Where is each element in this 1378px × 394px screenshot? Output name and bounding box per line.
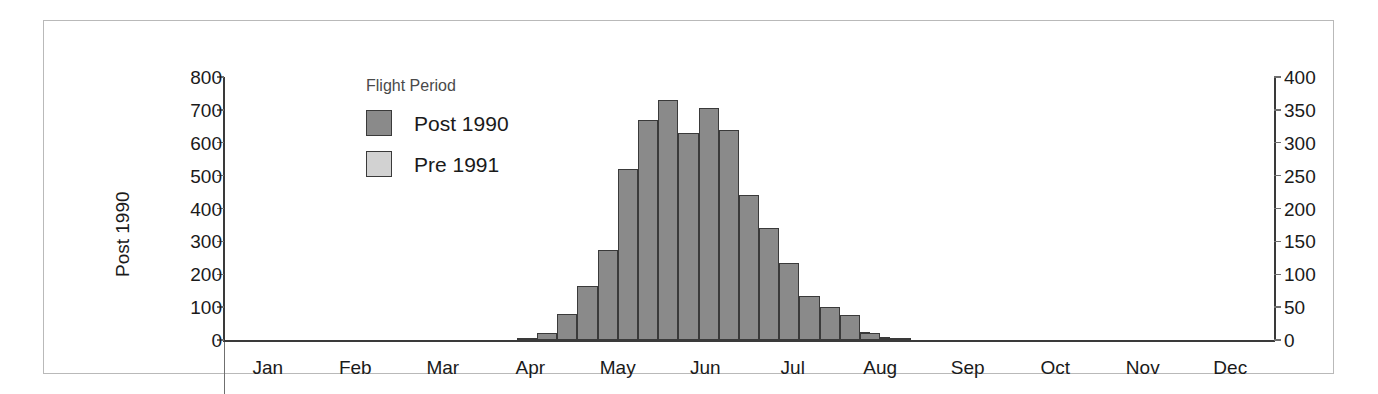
right-axis-tick-label: 250 — [1284, 167, 1316, 186]
right-axis-tick — [1274, 339, 1281, 340]
x-axis-month-label: Dec — [1190, 358, 1270, 377]
right-axis-tick-label: 0 — [1284, 331, 1295, 350]
bar-post-1990 — [719, 130, 739, 340]
x-axis-month-label: Feb — [315, 358, 395, 377]
bar-post-1990 — [779, 263, 799, 340]
bar-post-1990 — [577, 286, 597, 340]
figure-frame: 0100200300400500600700800 05010015020025… — [43, 20, 1334, 374]
bar-post-1990 — [517, 338, 537, 340]
bar-post-1990 — [840, 315, 860, 340]
left-axis-tick-label: 300 — [190, 232, 222, 251]
legend-label-pre-1991: Pre 1991 — [414, 154, 499, 175]
bar-post-1990 — [537, 333, 557, 340]
bar-post-1990 — [638, 120, 658, 340]
right-axis-tick — [1274, 274, 1281, 275]
bar-post-1990 — [739, 195, 759, 340]
right-axis-tick-label: 50 — [1284, 298, 1305, 317]
bar-post-1990 — [678, 133, 698, 340]
x-axis-month-label: May — [578, 358, 658, 377]
bar-post-1990 — [860, 333, 880, 340]
right-axis-tick-label: 350 — [1284, 101, 1316, 120]
x-axis-line — [223, 340, 1275, 342]
right-axis-tick — [1274, 142, 1281, 143]
left-axis-title: Post 1990 — [112, 191, 134, 277]
bar-post-1990 — [598, 250, 618, 340]
right-axis-tick — [1274, 306, 1281, 307]
bar-post-1990 — [658, 100, 678, 340]
legend-item-post-1990: Post 1990 — [366, 110, 576, 136]
right-axis-tick-label: 300 — [1284, 134, 1316, 153]
legend-swatch-post-1990 — [366, 110, 392, 136]
bar-post-1990 — [618, 169, 638, 340]
x-axis-tick — [224, 356, 225, 365]
x-axis-month-label: Sep — [928, 358, 1008, 377]
x-axis-month-label: Mar — [403, 358, 483, 377]
left-axis-tick-label: 700 — [190, 101, 222, 120]
legend: Flight Period Post 1990 Pre 1991 — [366, 78, 576, 192]
x-axis-tick — [224, 347, 225, 356]
bar-post-1990 — [759, 228, 779, 340]
bar-post-1990 — [799, 296, 819, 340]
left-axis-tick-label: 500 — [190, 167, 222, 186]
right-axis-tick-label: 400 — [1284, 68, 1316, 87]
bar-post-1990 — [699, 108, 719, 340]
right-axis-tick — [1274, 241, 1281, 242]
right-axis-tick — [1274, 76, 1281, 77]
legend-label-post-1990: Post 1990 — [414, 113, 509, 134]
bar-post-1990 — [820, 307, 840, 340]
right-axis-tick — [1274, 208, 1281, 209]
x-axis-month-label: Nov — [1103, 358, 1183, 377]
left-axis-tick-label: 600 — [190, 134, 222, 153]
right-axis-tick — [1274, 175, 1281, 176]
left-axis-tick-label: 400 — [190, 200, 222, 219]
bar-post-1990 — [557, 314, 577, 340]
x-axis-month-label: Aug — [840, 358, 920, 377]
x-axis-month-label: Oct — [1015, 358, 1095, 377]
bar-post-1990 — [880, 338, 900, 340]
right-axis-tick-label: 200 — [1284, 200, 1316, 219]
right-axis-tick-label: 100 — [1284, 265, 1316, 284]
legend-swatch-pre-1991 — [366, 151, 392, 177]
left-axis-tick-label: 200 — [190, 265, 222, 284]
x-axis-month-label: Apr — [490, 358, 570, 377]
right-axis-tick-label: 150 — [1284, 232, 1316, 251]
x-axis-month-label: Jul — [753, 358, 833, 377]
x-axis-month-label: Jan — [228, 358, 308, 377]
x-axis-month-label: Jun — [665, 358, 745, 377]
left-axis-tick-label: 800 — [190, 68, 222, 87]
legend-item-pre-1991: Pre 1991 — [366, 151, 576, 177]
right-axis-tick — [1274, 109, 1281, 110]
x-axis-tick — [224, 374, 225, 383]
left-axis-tick-label: 0 — [211, 331, 222, 350]
left-axis-tick-label: 100 — [190, 298, 222, 317]
x-axis-tick — [224, 365, 225, 374]
legend-title: Flight Period — [366, 78, 576, 94]
x-axis-tick — [224, 383, 225, 392]
